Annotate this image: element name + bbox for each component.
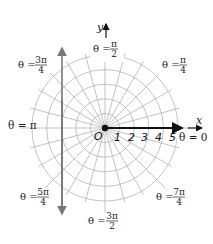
grid-ray bbox=[67, 61, 106, 128]
svg-text:5π: 5π bbox=[37, 187, 49, 197]
pole-point bbox=[102, 125, 108, 131]
tick-2: 2 bbox=[128, 131, 135, 144]
tick-4: 4 bbox=[155, 131, 162, 144]
svg-text:θ =: θ = bbox=[88, 215, 106, 226]
svg-text:4: 4 bbox=[38, 65, 44, 75]
svg-text:π: π bbox=[180, 55, 186, 65]
svg-text:3π: 3π bbox=[106, 211, 118, 221]
label-theta-pi-over-2: θ = π 2 bbox=[90, 39, 124, 62]
tick-1: 1 bbox=[114, 131, 121, 144]
svg-text:θ =: θ = bbox=[156, 191, 174, 202]
svg-text:4: 4 bbox=[180, 65, 186, 75]
label-theta-5pi-over-4: θ = 5π 4 bbox=[16, 187, 50, 210]
tick-3: 3 bbox=[141, 131, 148, 144]
svg-text:7π: 7π bbox=[173, 187, 185, 197]
svg-text:θ =: θ = bbox=[162, 59, 180, 70]
svg-text:θ =: θ = bbox=[20, 191, 38, 202]
svg-text:π: π bbox=[111, 39, 117, 49]
origin-label: O bbox=[94, 130, 103, 143]
label-theta-7pi-over-4: θ = 7π 4 bbox=[154, 187, 188, 210]
svg-text:θ =: θ = bbox=[18, 59, 36, 70]
label-theta-3pi-over-2: θ = 3π 2 bbox=[88, 211, 118, 231]
grid-ray bbox=[105, 68, 165, 128]
grid-ray bbox=[105, 90, 172, 129]
svg-text:4: 4 bbox=[40, 197, 46, 207]
svg-text:4: 4 bbox=[176, 197, 182, 207]
polar-grid-diagram: y x O 1 2 3 4 5 θ = 0 θ = π θ = π 2 θ = … bbox=[0, 0, 213, 244]
y-axis-label: y bbox=[96, 21, 104, 34]
label-theta-0: θ = 0 bbox=[177, 131, 211, 144]
grid-ray bbox=[38, 90, 105, 129]
label-theta-3pi-over-4: θ = 3π 4 bbox=[16, 55, 50, 78]
svg-text:θ = 0: θ = 0 bbox=[179, 131, 208, 143]
svg-text:3π: 3π bbox=[35, 55, 47, 65]
x-axis-label: x bbox=[196, 114, 203, 127]
grid-ray bbox=[105, 128, 144, 195]
svg-text:θ = π: θ = π bbox=[8, 119, 37, 131]
svg-text:2: 2 bbox=[111, 49, 117, 59]
grid-ray bbox=[105, 61, 144, 128]
label-theta-pi-over-4: θ = π 4 bbox=[159, 55, 191, 78]
label-theta-pi: θ = π bbox=[8, 119, 37, 131]
tick-5: 5 bbox=[169, 131, 176, 144]
grid-ray bbox=[45, 68, 105, 128]
svg-text:2: 2 bbox=[109, 221, 115, 231]
svg-text:θ =: θ = bbox=[93, 43, 111, 54]
